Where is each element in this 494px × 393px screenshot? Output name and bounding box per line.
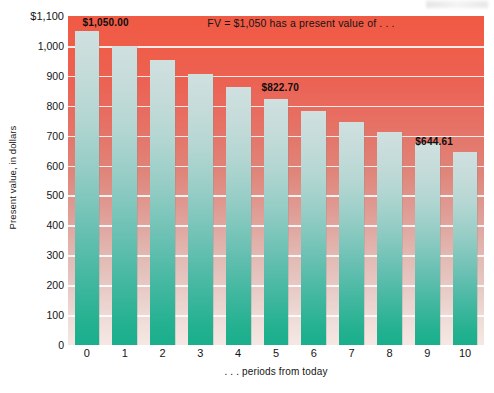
chart-caption: FV = $1,050 has a present value of . . . (207, 17, 394, 29)
x-tick-label: 5 (273, 347, 279, 359)
y-tick-label: 1,000 (14, 40, 64, 52)
bar-value-label: $822.70 (261, 82, 299, 93)
bar-series (68, 16, 484, 345)
x-tick-label: 7 (349, 347, 355, 359)
bar-value-label: $644.61 (415, 136, 453, 147)
x-axis-tick-labels: 012345678910 (68, 347, 484, 365)
x-tick-label: 0 (84, 347, 90, 359)
bar (415, 143, 440, 345)
y-tick-label: 800 (14, 100, 64, 112)
y-axis-tick-labels: 01002003004005006007008009001,000$1,100 (14, 14, 64, 346)
y-tick-label: 600 (14, 160, 64, 172)
bar (150, 60, 175, 345)
x-tick-label: 8 (386, 347, 392, 359)
bar (453, 152, 478, 345)
x-tick-label: 2 (159, 347, 165, 359)
bar (339, 122, 364, 345)
y-tick-label: 700 (14, 130, 64, 142)
bar-value-label: $1,050.00 (83, 17, 129, 28)
bar (301, 111, 326, 345)
bar (226, 87, 251, 345)
plot-area: FV = $1,050 has a present value of . . .… (68, 16, 484, 345)
x-tick-label: 3 (197, 347, 203, 359)
x-tick-label: 9 (424, 347, 430, 359)
bar (264, 99, 289, 345)
y-tick-label: 500 (14, 189, 64, 201)
y-tick-label: 900 (14, 70, 64, 82)
y-tick-label: 400 (14, 219, 64, 231)
bar (75, 31, 100, 345)
y-tick-label: 200 (14, 279, 64, 291)
y-tick-label: 0 (14, 339, 64, 351)
x-axis-title: . . . periods from today (68, 366, 484, 377)
scan-artifact (426, 1, 488, 8)
x-tick-label: 4 (235, 347, 241, 359)
bar (188, 74, 213, 345)
x-tick-label: 6 (311, 347, 317, 359)
x-tick-label: 1 (122, 347, 128, 359)
y-tick-label: 100 (14, 309, 64, 321)
bar (377, 132, 402, 345)
y-tick-label: $1,100 (14, 10, 64, 22)
x-tick-label: 10 (459, 347, 471, 359)
y-tick-label: 300 (14, 249, 64, 261)
present-value-bar-chart: Present value, in dollars 01002003004005… (0, 0, 494, 393)
bar (112, 46, 137, 345)
